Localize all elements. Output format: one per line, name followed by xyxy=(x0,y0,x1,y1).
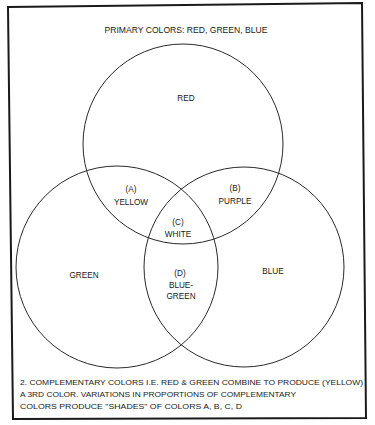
diagram-title: PRIMARY COLORS: RED, GREEN, BLUE xyxy=(104,25,267,35)
label-c-tag: (C) xyxy=(172,218,184,227)
footer-line-2: A 3RD COLOR. VARIATIONS IN PROPORTIONS O… xyxy=(20,390,297,399)
diagram-frame xyxy=(8,3,366,419)
label-d-tag: (D) xyxy=(174,269,186,278)
label-c-name: WHITE xyxy=(165,230,192,239)
label-red: RED xyxy=(177,94,194,103)
circle-red xyxy=(83,44,283,244)
label-d-name-2: GREEN xyxy=(166,292,195,301)
circle-green xyxy=(16,166,218,368)
venn-diagram: PRIMARY COLORS: RED, GREEN, BLUE RED GRE… xyxy=(0,0,375,425)
label-a-name: YELLOW xyxy=(114,198,148,207)
label-a-tag: (A) xyxy=(126,185,137,194)
label-b-name: PURPLE xyxy=(219,197,252,206)
label-d-name-1: BLUE- xyxy=(169,281,193,290)
label-b-tag: (B) xyxy=(230,184,241,193)
label-green: GREEN xyxy=(69,271,98,280)
footer-line-1: 2. COMPLEMENTARY COLORS I.E. RED & GREEN… xyxy=(20,378,363,387)
footer-line-3: COLORS PRODUCE "SHADES" OF COLORS A, B, … xyxy=(20,402,242,411)
label-blue: BLUE xyxy=(262,267,284,276)
